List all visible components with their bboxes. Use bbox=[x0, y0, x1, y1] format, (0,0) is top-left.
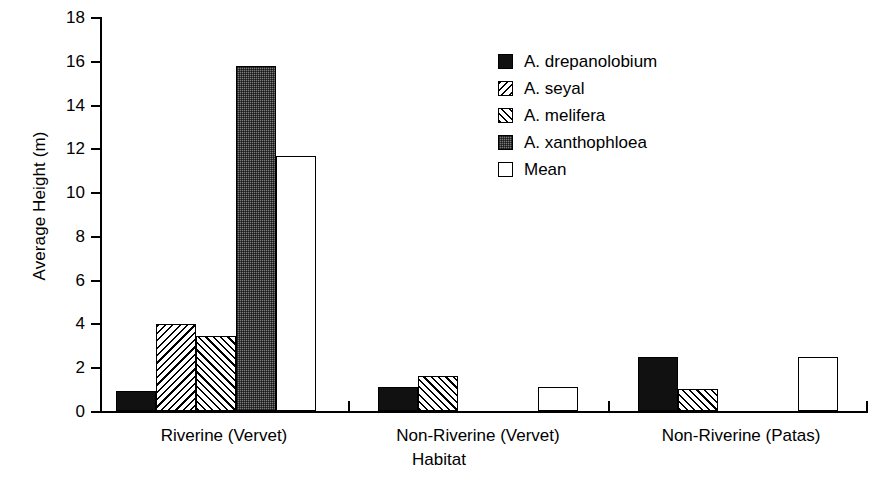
y-tick-label-14: 14 bbox=[40, 97, 85, 114]
y-tick-2 bbox=[91, 367, 102, 369]
x-tick-start bbox=[100, 401, 102, 412]
x-label-non-riverine-patas: Non-Riverine (Patas) bbox=[618, 426, 864, 446]
fwd-diagonal-swatch-icon bbox=[498, 108, 513, 123]
stipple-gray-swatch-icon bbox=[498, 135, 513, 150]
y-tick-label-12: 12 bbox=[40, 140, 85, 157]
legend-label-a-seyal: A. seyal bbox=[524, 80, 584, 97]
open-white-swatch-icon bbox=[498, 162, 513, 177]
x-label-riverine-vervet: Riverine (Vervet) bbox=[104, 426, 344, 446]
bar-non-riverine-vervet-mean bbox=[538, 387, 578, 411]
legend-label-a-drepanolobium: A. drepanolobium bbox=[524, 53, 657, 70]
y-tick-18 bbox=[91, 17, 102, 19]
y-tick-16 bbox=[91, 61, 102, 63]
legend-item-a-melifera: A. melifera bbox=[498, 102, 657, 129]
y-tick-10 bbox=[91, 192, 102, 194]
bar-riverine-vervet-a-drepanolobium bbox=[116, 391, 156, 411]
bar-non-riverine-patas-a-drepanolobium bbox=[638, 357, 678, 411]
legend-item-a-xanthophloea: A. xanthophloea bbox=[498, 129, 657, 156]
back-diagonal-swatch-icon bbox=[498, 81, 513, 96]
y-tick-14 bbox=[91, 105, 102, 107]
bar-non-riverine-patas-mean bbox=[798, 357, 838, 411]
x-axis-line bbox=[100, 411, 868, 413]
bar-chart: Average Height (m) 18 16 14 12 10 8 6 4 … bbox=[0, 0, 878, 486]
bar-riverine-vervet-a-xanthophloea bbox=[236, 66, 276, 411]
y-tick-12 bbox=[91, 148, 102, 150]
y-tick-label-4: 4 bbox=[40, 315, 85, 332]
bar-non-riverine-vervet-a-drepanolobium bbox=[378, 387, 418, 411]
x-label-non-riverine-vervet: Non-Riverine (Vervet) bbox=[358, 426, 598, 446]
bar-riverine-vervet-mean bbox=[276, 156, 316, 411]
bar-non-riverine-vervet-a-melifera bbox=[418, 376, 458, 411]
y-tick-8 bbox=[91, 236, 102, 238]
legend-label-a-melifera: A. melifera bbox=[524, 107, 605, 124]
bar-riverine-vervet-a-seyal bbox=[156, 324, 196, 411]
y-tick-label-16: 16 bbox=[40, 53, 85, 70]
y-tick-label-2: 2 bbox=[40, 359, 85, 376]
y-tick-label-0: 0 bbox=[40, 403, 85, 420]
legend-item-a-seyal: A. seyal bbox=[498, 75, 657, 102]
legend: A. drepanolobium A. seyal A. melifera A.… bbox=[498, 48, 657, 183]
legend-item-a-drepanolobium: A. drepanolobium bbox=[498, 48, 657, 75]
y-tick-label-6: 6 bbox=[40, 272, 85, 289]
x-tick-group-1-end bbox=[348, 401, 350, 412]
y-tick-label-18: 18 bbox=[40, 9, 85, 26]
y-axis-line bbox=[100, 18, 102, 412]
bar-non-riverine-patas-a-melifera bbox=[678, 389, 718, 411]
y-tick-6 bbox=[91, 280, 102, 282]
legend-item-mean: Mean bbox=[498, 156, 657, 183]
legend-label-a-xanthophloea: A. xanthophloea bbox=[524, 134, 647, 151]
bar-riverine-vervet-a-melifera bbox=[196, 336, 236, 411]
y-tick-label-10: 10 bbox=[40, 184, 85, 201]
y-tick-label-8: 8 bbox=[40, 228, 85, 245]
y-tick-4 bbox=[91, 323, 102, 325]
x-tick-end bbox=[866, 401, 868, 412]
x-axis-title: Habitat bbox=[0, 450, 878, 470]
legend-label-mean: Mean bbox=[524, 161, 567, 178]
x-tick-group-2-end bbox=[608, 401, 610, 412]
solid-black-swatch-icon bbox=[498, 54, 513, 69]
